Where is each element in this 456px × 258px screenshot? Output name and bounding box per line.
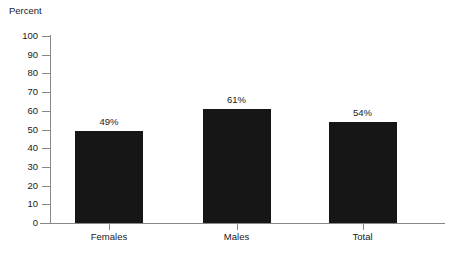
y-axis-tick-label: 90 (12, 50, 38, 60)
y-axis-tick-label: 80 (12, 68, 38, 78)
x-axis-tick (363, 224, 364, 230)
y-axis-tick-label: 30 (12, 162, 38, 172)
x-axis-tick (237, 224, 238, 230)
y-axis-tick (42, 73, 50, 74)
x-axis-label-males: Males (192, 231, 282, 243)
y-axis-tick-label: 20 (12, 181, 38, 191)
bar-chart: Percent 0102030405060708090100 49%61%54%… (0, 0, 456, 258)
y-axis-tick (42, 148, 50, 149)
y-axis-tick-label: 10 (12, 199, 38, 209)
y-axis-tick-label: 70 (12, 87, 38, 97)
y-axis-line (50, 35, 51, 224)
bar-females (75, 131, 143, 223)
y-axis-tick (42, 223, 50, 224)
y-axis-tick (42, 36, 50, 37)
y-axis-tick (42, 167, 50, 168)
bar-value-label: 61% (207, 94, 267, 105)
y-axis-tick-label: 40 (12, 143, 38, 153)
y-axis-tick (42, 55, 50, 56)
bar-total (329, 122, 397, 223)
bar-value-label: 49% (79, 116, 139, 127)
y-axis-title: Percent (9, 5, 42, 16)
y-axis-tick (42, 111, 50, 112)
x-axis-line (40, 223, 445, 224)
y-axis-tick (42, 92, 50, 93)
y-axis-tick-label: 50 (12, 125, 38, 135)
y-axis-tick-label: 60 (12, 106, 38, 116)
bar-value-label: 54% (333, 107, 393, 118)
y-axis-tick-label: 0 (12, 218, 38, 228)
y-axis-tick (42, 130, 50, 131)
x-axis-label-total: Total (318, 231, 408, 243)
x-axis-label-females: Females (64, 231, 154, 243)
y-axis-tick (42, 186, 50, 187)
y-axis-tick-label: 100 (12, 31, 38, 41)
y-axis-tick (42, 204, 50, 205)
x-axis-tick (109, 224, 110, 230)
bar-males (203, 109, 271, 223)
